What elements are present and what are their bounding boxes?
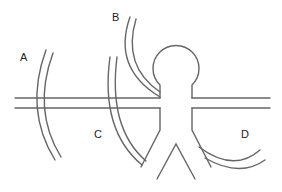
arc-a	[37, 50, 61, 160]
membrane-lines	[15, 98, 270, 108]
arc-d	[199, 147, 265, 169]
label-d: D	[241, 128, 249, 140]
label-a: A	[20, 51, 28, 63]
label-b: B	[112, 11, 119, 23]
central-structure	[141, 45, 211, 179]
label-c: C	[94, 128, 102, 140]
diagram-canvas: A B C D	[0, 0, 282, 192]
arc-b	[125, 17, 160, 97]
